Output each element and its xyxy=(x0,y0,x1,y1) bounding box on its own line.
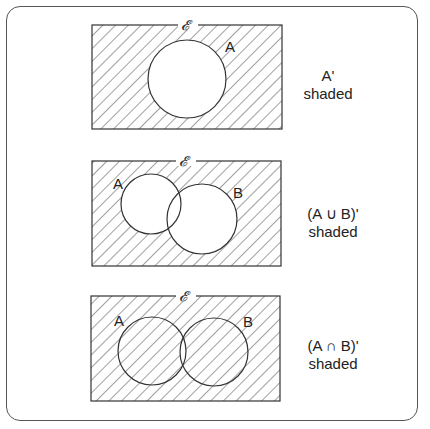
caption-intersection-complement: (A ∩ B)' shaded xyxy=(288,337,378,373)
set-a-circle xyxy=(148,40,226,118)
caption-expression: (A ∪ B)' xyxy=(288,205,378,223)
caption-union-complement: (A ∪ B)' shaded xyxy=(288,205,378,241)
set-a-label: A xyxy=(113,175,123,192)
set-b-label: B xyxy=(243,313,253,330)
set-a-label: A xyxy=(114,312,124,329)
caption-a-complement: A' shaded xyxy=(283,67,373,103)
caption-shaded: shaded xyxy=(288,355,378,373)
venn-diagram-a-complement: 𝓔 A xyxy=(92,17,282,129)
set-b-label: B xyxy=(233,184,243,201)
caption-expression: A' xyxy=(283,67,373,85)
venn-diagram-intersection-complement: 𝓔 A B xyxy=(91,288,280,401)
venn-diagram-union-complement: 𝓔 A B xyxy=(92,153,281,266)
caption-shaded: shaded xyxy=(288,223,378,241)
caption-shaded: shaded xyxy=(283,85,373,103)
caption-expression: (A ∩ B)' xyxy=(288,337,378,355)
set-a-label: A xyxy=(225,38,235,55)
